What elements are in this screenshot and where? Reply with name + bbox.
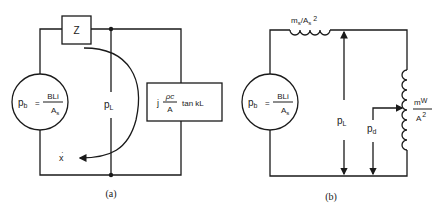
series-inductor [290, 30, 330, 35]
wire-b-bottom [270, 130, 407, 176]
svg-text:j: j [156, 98, 159, 108]
svg-text:A: A [167, 105, 173, 114]
shunt-inductor-numerator: mW [414, 97, 428, 107]
shunt-inductor [402, 70, 407, 150]
svg-text:ρc: ρc [165, 92, 175, 101]
svg-text:As: As [51, 106, 59, 116]
svg-text:tan kL: tan kL [182, 99, 204, 108]
velocity-x-label: x [59, 153, 64, 163]
wire-a-top-right [91, 29, 181, 83]
tap-pressure: pd [367, 123, 377, 135]
diagram-a: Z pb = BLi As pL · x j ρc A tan kL (a) [12, 16, 222, 200]
load-pressure-a: pL [104, 99, 114, 111]
caption-a: (a) [105, 188, 116, 200]
caption-b: (b) [325, 191, 337, 203]
source-a-numerator: BLi [47, 92, 59, 101]
circuit-diagrams: Z pb = BLi As pL · x j ρc A tan kL (a) [0, 0, 444, 211]
wire-b-top-right [330, 30, 407, 70]
pd-arrow-tap [373, 108, 402, 120]
svg-text:=: = [265, 99, 270, 108]
shunt-inductor-denominator: A2 [416, 111, 426, 123]
wire-b-top-left [270, 30, 290, 74]
svg-text:As: As [281, 106, 289, 116]
diagram-b: ms/As2 pb = BLi As pL pd mW A2 [242, 15, 432, 203]
svg-text:=: = [35, 99, 40, 108]
impedance-z-label: Z [73, 25, 79, 36]
wire-a-top-left [40, 29, 62, 74]
svg-text:pb: pb [18, 97, 28, 109]
svg-text:pb: pb [248, 97, 258, 109]
load-pressure-b: pL [337, 115, 347, 127]
series-inductor-label: ms/As2 [291, 15, 317, 26]
svg-text:BLi: BLi [277, 92, 289, 101]
